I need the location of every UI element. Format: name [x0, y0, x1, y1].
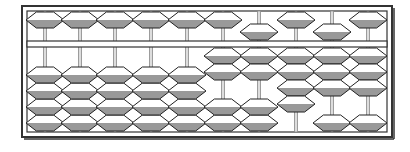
lower-bead-rod-7[interactable] — [240, 99, 278, 115]
lower-bead-rod-5[interactable] — [168, 83, 206, 99]
lower-bead-rod-4[interactable] — [132, 67, 170, 83]
upper-bead-rod-10[interactable] — [349, 12, 387, 28]
lower-bead-rod-9[interactable] — [313, 64, 351, 80]
lower-bead-rod-6[interactable] — [204, 99, 242, 115]
lower-bead-rod-8[interactable] — [277, 80, 315, 96]
lower-bead-rod-5[interactable] — [168, 67, 206, 83]
lower-bead-rod-10[interactable] — [349, 115, 387, 131]
abacus-diagram — [0, 0, 410, 152]
upper-bead-rod-3[interactable] — [96, 12, 134, 28]
lower-bead-rod-7[interactable] — [240, 115, 278, 131]
lower-bead-rod-4[interactable] — [132, 83, 170, 99]
upper-bead-rod-2[interactable] — [61, 12, 99, 28]
lower-bead-rod-2[interactable] — [61, 67, 99, 83]
lower-bead-rod-5[interactable] — [168, 115, 206, 131]
upper-bead-rod-5[interactable] — [168, 12, 206, 28]
lower-bead-rod-4[interactable] — [132, 99, 170, 115]
lower-bead-rod-8[interactable] — [277, 64, 315, 80]
lower-bead-rod-2[interactable] — [61, 99, 99, 115]
lower-bead-rod-2[interactable] — [61, 83, 99, 99]
lower-bead-rod-10[interactable] — [349, 64, 387, 80]
lower-bead-rod-9[interactable] — [313, 80, 351, 96]
lower-bead-rod-1[interactable] — [26, 83, 64, 99]
upper-bead-rod-8[interactable] — [277, 12, 315, 28]
lower-bead-rod-3[interactable] — [96, 83, 134, 99]
upper-bead-rod-6[interactable] — [204, 12, 242, 28]
upper-bead-rod-9[interactable] — [313, 24, 351, 40]
upper-bead-rod-4[interactable] — [132, 12, 170, 28]
lower-bead-rod-1[interactable] — [26, 99, 64, 115]
upper-bead-rod-1[interactable] — [26, 12, 64, 28]
lower-bead-rod-3[interactable] — [96, 99, 134, 115]
lower-bead-rod-1[interactable] — [26, 67, 64, 83]
abacus-beam — [27, 41, 387, 47]
lower-bead-rod-10[interactable] — [349, 48, 387, 64]
lower-bead-rod-10[interactable] — [349, 80, 387, 96]
lower-bead-rod-1[interactable] — [26, 115, 64, 131]
lower-bead-rod-9[interactable] — [313, 48, 351, 64]
lower-bead-rod-8[interactable] — [277, 96, 315, 112]
upper-bead-rod-7[interactable] — [240, 24, 278, 40]
lower-bead-rod-5[interactable] — [168, 99, 206, 115]
lower-bead-rod-4[interactable] — [132, 115, 170, 131]
lower-bead-rod-6[interactable] — [204, 115, 242, 131]
lower-bead-rod-7[interactable] — [240, 48, 278, 64]
lower-bead-rod-9[interactable] — [313, 115, 351, 131]
lower-bead-rod-8[interactable] — [277, 48, 315, 64]
lower-bead-rod-6[interactable] — [204, 64, 242, 80]
lower-bead-rod-7[interactable] — [240, 64, 278, 80]
lower-bead-rod-3[interactable] — [96, 115, 134, 131]
lower-bead-rod-2[interactable] — [61, 115, 99, 131]
lower-bead-rod-6[interactable] — [204, 48, 242, 64]
lower-bead-rod-3[interactable] — [96, 67, 134, 83]
